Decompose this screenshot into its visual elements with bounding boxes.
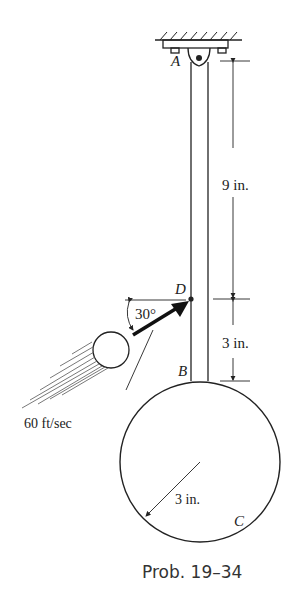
dimension-lower-label: 3 in. xyxy=(222,335,249,351)
angle-label: 30° xyxy=(135,306,156,322)
dimension-lines xyxy=(213,61,250,381)
label-c: C xyxy=(234,513,245,529)
figure-caption: Prob. 19–34 xyxy=(142,562,242,582)
radius-label: 3 in. xyxy=(175,492,200,507)
dimension-upper-label: 9 in. xyxy=(222,177,249,193)
pendulum-diagram: A D B C 9 in. 3 in. 3 in. 30° 60 ft/sec … xyxy=(0,0,301,609)
ball xyxy=(93,332,129,368)
velocity-label: 60 ft/sec xyxy=(24,416,72,431)
diagram-canvas: A D B C 9 in. 3 in. 3 in. 30° 60 ft/sec … xyxy=(0,0,301,609)
point-d-icon xyxy=(188,296,193,301)
pin-a-icon xyxy=(196,55,202,61)
label-a: A xyxy=(170,53,181,69)
label-b: B xyxy=(178,363,187,379)
radius-dimension xyxy=(146,462,200,516)
rod xyxy=(191,62,208,381)
label-d: D xyxy=(174,281,186,297)
